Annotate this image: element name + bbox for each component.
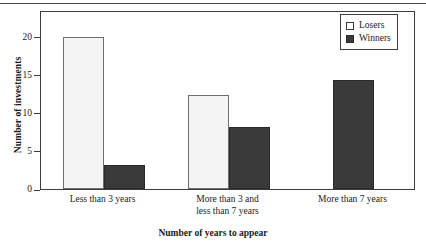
y-axis-tick-label: 10 [6, 109, 32, 119]
x-axis-category-label: More than 3 and less than 7 years [158, 194, 298, 217]
x-axis-title: Number of years to appear [0, 228, 426, 238]
legend-swatch-icon [346, 22, 354, 30]
y-axis-tick-label: 5 [6, 147, 32, 157]
legend-item-label: Winners [359, 34, 391, 44]
bar-winners-2 [333, 80, 374, 189]
page-separator-rule [0, 3, 426, 4]
legend-item-winners: Winners [346, 32, 391, 45]
bar-losers-1 [188, 95, 229, 189]
legend-item-label: Losers [359, 21, 384, 31]
x-axis-category-label: Less than 3 years [33, 194, 173, 206]
legend-item-losers: Losers [346, 19, 391, 32]
y-axis-tick-label: 20 [6, 33, 32, 43]
legend-swatch-icon [346, 35, 354, 43]
bar-winners-0 [104, 165, 145, 189]
bar-winners-1 [229, 127, 270, 189]
bar-losers-0 [63, 37, 104, 189]
y-axis-tick-label: 0 [6, 185, 32, 195]
y-axis-tick-label: 15 [6, 71, 32, 81]
legend: LosersWinners [340, 14, 398, 50]
x-axis-category-label: More than 7 years [283, 194, 423, 206]
